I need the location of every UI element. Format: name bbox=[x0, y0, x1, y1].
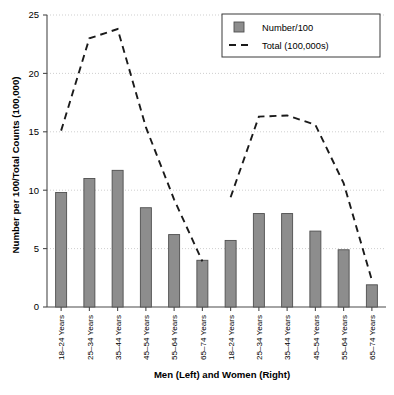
bar bbox=[169, 235, 180, 307]
legend-swatch-number-per-100 bbox=[234, 22, 244, 32]
x-tick-label: 25–34 Years bbox=[255, 315, 264, 360]
y-tick-label: 0 bbox=[34, 301, 39, 312]
legend-label-total: Total (100,000s) bbox=[262, 41, 329, 51]
bar bbox=[84, 179, 95, 307]
y-tick-label: 20 bbox=[28, 68, 39, 79]
x-tick-label: 18–24 Years bbox=[57, 315, 66, 360]
bar bbox=[253, 214, 264, 307]
x-tick-label: 45–54 Years bbox=[142, 315, 151, 360]
bar bbox=[56, 193, 67, 307]
x-tick-label: 55–64 Years bbox=[170, 315, 179, 360]
bar bbox=[282, 214, 293, 307]
bar bbox=[112, 170, 123, 307]
bar bbox=[197, 260, 208, 307]
chart-container: 0510152025 18–24 Years25–34 Years35–44 Y… bbox=[0, 0, 394, 395]
y-tick-label: 10 bbox=[28, 185, 39, 196]
bar-line-chart: 0510152025 18–24 Years25–34 Years35–44 Y… bbox=[0, 0, 394, 395]
bar bbox=[225, 240, 236, 307]
x-axis-title: Men (Left) and Women (Right) bbox=[154, 369, 290, 380]
bar bbox=[366, 285, 377, 307]
y-tick-label: 25 bbox=[28, 9, 39, 20]
x-tick-label: 35–44 Years bbox=[114, 315, 123, 360]
x-tick-label: 65–74 Years bbox=[199, 315, 208, 360]
x-tick-label: 45–54 Years bbox=[312, 315, 321, 360]
legend-label-number-per-100: Number/100 bbox=[262, 23, 313, 33]
chart-legend: Number/100 Total (100,000s) bbox=[222, 14, 380, 57]
bar bbox=[310, 231, 321, 307]
x-tick-label: 55–64 Years bbox=[340, 315, 349, 360]
bar bbox=[338, 250, 349, 307]
y-tick-label: 15 bbox=[28, 126, 39, 137]
x-tick-label: 18–24 Years bbox=[227, 315, 236, 360]
bar bbox=[140, 208, 151, 307]
x-tick-label: 65–74 Years bbox=[368, 315, 377, 360]
y-axis-title: Number per 100/Total Counts (100,000) bbox=[10, 77, 21, 254]
x-tick-label: 25–34 Years bbox=[86, 315, 95, 360]
y-tick-label: 5 bbox=[34, 243, 39, 254]
x-tick-label: 35–44 Years bbox=[283, 315, 292, 360]
